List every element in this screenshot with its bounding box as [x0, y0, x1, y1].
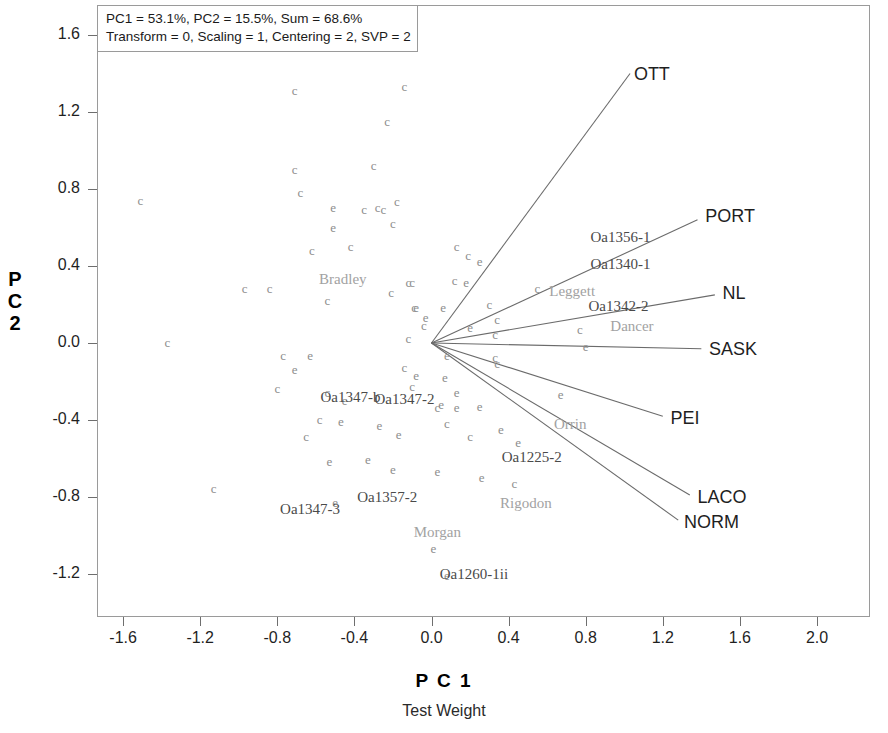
x-tick-mark [586, 617, 587, 626]
y-tick-label: 0.8 [20, 179, 80, 197]
annotation-line-variance: PC1 = 53.1%, PC2 = 15.5%, Sum = 68.6% [106, 10, 411, 28]
x-tick-mark [123, 617, 124, 626]
y-tick-mark [88, 35, 97, 36]
y-tick-label: 0.4 [20, 256, 80, 274]
y-axis-title-char-2: 2 [4, 312, 26, 334]
x-tick-label: -1.2 [170, 629, 230, 647]
x-tick-label: 2.0 [787, 629, 847, 647]
y-tick-label: 0.0 [20, 333, 80, 351]
y-tick-mark [88, 497, 97, 498]
y-tick-mark [88, 112, 97, 113]
x-tick-mark [354, 617, 355, 626]
y-tick-label: -1.2 [20, 564, 80, 582]
y-tick-label: 1.6 [20, 25, 80, 43]
y-tick-label: -0.8 [20, 487, 80, 505]
y-tick-mark [88, 420, 97, 421]
x-tick-label: 0.4 [479, 629, 539, 647]
chart-canvas: PC1 = 53.1%, PC2 = 15.5%, Sum = 68.6% Tr… [0, 0, 888, 733]
plot-frame [97, 5, 870, 617]
x-tick-mark [817, 617, 818, 626]
x-tick-label: -1.6 [93, 629, 153, 647]
y-tick-mark [88, 189, 97, 190]
x-tick-label: -0.8 [247, 629, 307, 647]
y-tick-label: -0.4 [20, 410, 80, 428]
x-tick-mark [277, 617, 278, 626]
y-tick-label: 1.2 [20, 102, 80, 120]
annotation-box: PC1 = 53.1%, PC2 = 15.5%, Sum = 68.6% Tr… [98, 6, 418, 52]
x-tick-label: -0.4 [324, 629, 384, 647]
y-tick-mark [88, 343, 97, 344]
annotation-line-settings: Transform = 0, Scaling = 1, Centering = … [106, 28, 411, 46]
x-tick-mark [740, 617, 741, 626]
x-tick-label: 1.2 [633, 629, 693, 647]
x-tick-mark [432, 617, 433, 626]
y-axis-title: P C 2 [4, 268, 26, 334]
x-tick-label: 1.6 [710, 629, 770, 647]
x-tick-label: 0.0 [402, 629, 462, 647]
y-tick-mark [88, 574, 97, 575]
y-axis-title-char-1: C [4, 290, 26, 312]
y-tick-mark [88, 266, 97, 267]
x-tick-mark [200, 617, 201, 626]
x-tick-mark [663, 617, 664, 626]
x-axis-title: P C 1 [0, 670, 888, 692]
x-tick-mark [509, 617, 510, 626]
x-tick-label: 0.8 [556, 629, 616, 647]
x-axis-subtitle: Test Weight [0, 702, 888, 720]
